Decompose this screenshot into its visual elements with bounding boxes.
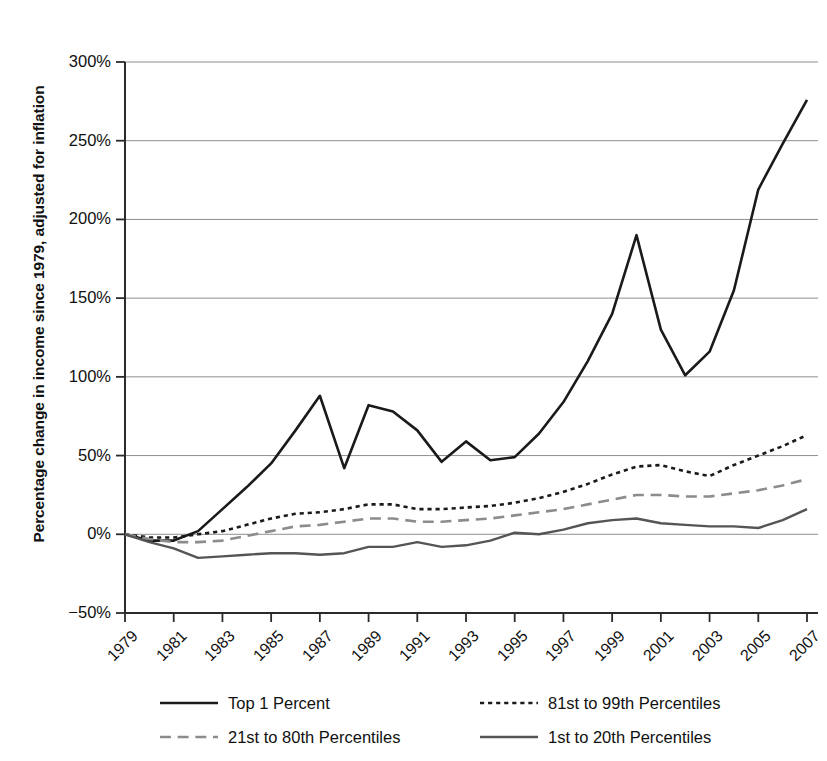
legend-swatch-icon bbox=[480, 696, 538, 710]
plot-area bbox=[0, 0, 827, 700]
legend-label: Top 1 Percent bbox=[228, 694, 330, 712]
legend-item-4[interactable]: 1st to 20th Percentiles bbox=[480, 722, 711, 752]
chart-figure: Percentage change in income since 1979, … bbox=[0, 0, 827, 761]
legend-swatch-icon bbox=[160, 730, 218, 744]
legend-label: 21st to 80th Percentiles bbox=[228, 728, 400, 746]
y-tick-label: 250% bbox=[21, 132, 111, 148]
legend-item-2[interactable]: 81st to 99th Percentiles bbox=[480, 688, 720, 718]
legend-item-1[interactable]: Top 1 Percent bbox=[160, 688, 330, 718]
y-tick-label: 100% bbox=[21, 368, 111, 384]
y-tick-label: 300% bbox=[21, 53, 111, 69]
legend-swatch-icon bbox=[160, 696, 218, 710]
series-line-2 bbox=[125, 435, 807, 537]
y-tick-label: 50% bbox=[21, 447, 111, 463]
y-tick-label: 150% bbox=[21, 289, 111, 305]
legend-item-3[interactable]: 21st to 80th Percentiles bbox=[160, 722, 400, 752]
y-tick-label: −50% bbox=[21, 604, 111, 620]
legend-label: 1st to 20th Percentiles bbox=[548, 728, 711, 746]
y-tick-label: 200% bbox=[21, 210, 111, 226]
legend-swatch-icon bbox=[480, 730, 538, 744]
legend-label: 81st to 99th Percentiles bbox=[548, 694, 720, 712]
series-line-3 bbox=[125, 479, 807, 542]
series-line-4 bbox=[125, 509, 807, 558]
chart-legend: Top 1 Percent81st to 99th Percentiles21s… bbox=[120, 688, 820, 758]
y-tick-label: 0% bbox=[21, 525, 111, 541]
